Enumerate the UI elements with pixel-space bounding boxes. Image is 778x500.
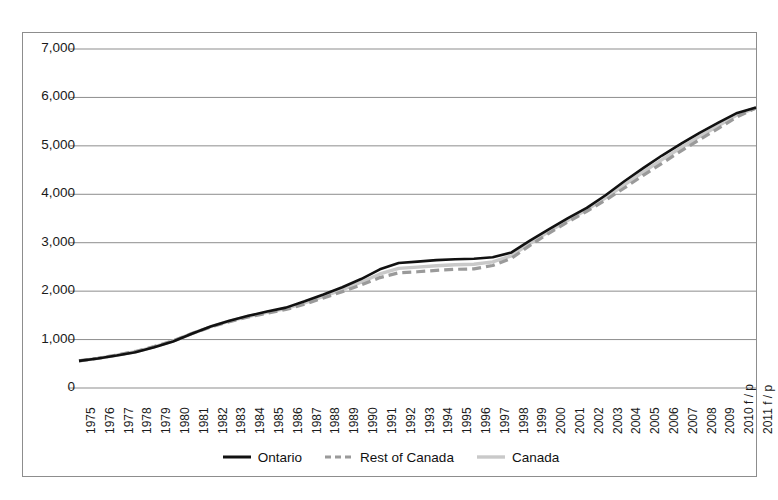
x-axis-tick-label: 1981 <box>197 407 211 434</box>
x-axis-tick-label: 1997 <box>498 407 512 434</box>
x-axis-tick-label: 2009 <box>723 407 737 434</box>
x-axis-tick-label: 2006 <box>667 407 681 434</box>
y-axis-tick-label: 1,000 <box>23 331 75 346</box>
x-axis-tick-label: 1978 <box>140 407 154 434</box>
x-axis-tick-label: 2004 <box>629 407 643 434</box>
x-axis-tick-label: 1992 <box>404 407 418 434</box>
y-axis-tick-label: 6,000 <box>23 88 75 103</box>
x-axis-tick-label: 2003 <box>611 407 625 434</box>
legend-label: Rest of Canada <box>360 450 454 465</box>
x-axis-tick-label: 2007 <box>686 407 700 434</box>
x-axis-tick-label: 1994 <box>441 407 455 434</box>
y-axis-tick-label: 3,000 <box>23 234 75 249</box>
x-axis-tick-label: 1984 <box>253 407 267 434</box>
x-axis-tick-label: 1987 <box>310 407 324 434</box>
legend-label: Ontario <box>258 450 302 465</box>
x-axis-tick-label: 1976 <box>103 407 117 434</box>
x-axis-tick-label: 2008 <box>705 407 719 434</box>
x-axis-tick-label: 1996 <box>479 407 493 434</box>
x-axis-tick-label: 2010 f / p <box>742 384 756 434</box>
y-axis-tick-label: 7,000 <box>23 40 75 55</box>
y-axis-tick-label: 4,000 <box>23 185 75 200</box>
x-axis-tick-label: 2001 <box>573 407 587 434</box>
x-axis-tick-label: 1990 <box>366 407 380 434</box>
legend-item[interactable]: Ontario <box>222 450 302 465</box>
x-axis-tick-label: 1982 <box>216 407 230 434</box>
chart-container: 01,0002,0003,0004,0005,0006,0007,000 197… <box>22 32 757 477</box>
x-axis-tick-label: 1995 <box>460 407 474 434</box>
x-axis-tick-label: 1980 <box>178 407 192 434</box>
chart-legend: OntarioRest of CanadaCanada <box>23 445 758 469</box>
x-axis-tick-label: 2002 <box>592 407 606 434</box>
x-axis-tick-label: 1985 <box>272 407 286 434</box>
gridlines-group <box>69 49 756 388</box>
x-axis-tick-label: 1989 <box>347 407 361 434</box>
x-axis-tick-label: 1977 <box>122 407 136 434</box>
x-axis-tick-label: 1999 <box>535 407 549 434</box>
legend-item[interactable]: Canada <box>476 450 559 465</box>
x-axis-tick-label: 1979 <box>159 407 173 434</box>
legend-label: Canada <box>512 450 559 465</box>
x-axis-tick-label: 1975 <box>84 407 98 434</box>
x-axis-tick-label: 1988 <box>328 407 342 434</box>
legend-item[interactable]: Rest of Canada <box>324 450 454 465</box>
y-axis-tick-label: 2,000 <box>23 282 75 297</box>
x-axis-labels: 1975197619771978197919801981198219831984… <box>23 388 758 448</box>
legend-swatch-line-icon <box>476 451 506 463</box>
x-axis-tick-label: 1986 <box>291 407 305 434</box>
x-axis-tick-label: 1993 <box>423 407 437 434</box>
x-axis-tick-label: 1998 <box>517 407 531 434</box>
legend-swatch-line-icon <box>324 451 354 463</box>
x-axis-tick-label: 1983 <box>234 407 248 434</box>
x-axis-tick-label: 1991 <box>385 407 399 434</box>
x-axis-tick-label: 2000 <box>554 407 568 434</box>
y-axis-tick-label: 5,000 <box>23 137 75 152</box>
x-axis-tick-label: 2005 <box>648 407 662 434</box>
legend-swatch-line-icon <box>222 451 252 463</box>
x-axis-tick-label: 2011 f / p <box>761 385 775 434</box>
